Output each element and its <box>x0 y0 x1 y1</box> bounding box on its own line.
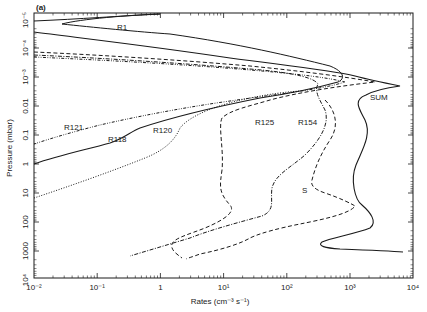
y-tick-label: 10⁴ <box>21 273 30 286</box>
x-tick-labels: 10⁻² 10⁻¹ 1 10¹ 10² 10³ 10⁴ <box>26 283 420 292</box>
y-tick-label: 1000 <box>21 242 30 260</box>
label-s: S <box>302 186 307 195</box>
chart-figure: (a) 10⁻² 10⁻¹ 1 10¹ 10² 10³ 10⁴ 10⁻⁵ 10⁻… <box>0 0 427 312</box>
y-axis-minor-ticks <box>34 29 413 276</box>
y-tick-label: 10⁻⁵ <box>21 12 30 28</box>
curve-r125 <box>34 52 375 258</box>
label-r154: R154 <box>298 118 318 127</box>
curve-r154 <box>34 55 326 256</box>
label-r120: R120 <box>153 126 173 135</box>
curve-sum <box>34 32 403 252</box>
label-r121: R121 <box>64 123 84 132</box>
y-tick-label: 100 <box>21 215 30 229</box>
x-tick-label: 10⁻¹ <box>89 283 105 292</box>
panel-label: (a) <box>36 3 46 12</box>
x-axis-title: Rates (cm⁻³ s⁻¹) <box>191 297 250 306</box>
label-sum: SUM <box>370 93 388 102</box>
x-tick-label: 10¹ <box>218 283 230 292</box>
y-tick-label: 10⁻⁴ <box>21 39 30 56</box>
curve-r120 <box>34 91 300 198</box>
label-r118: R118 <box>108 135 127 144</box>
x-axis-minor-ticks <box>53 13 410 278</box>
y-axis-title: Pressure (mbar) <box>5 119 14 177</box>
y-tick-label: 10 <box>21 188 30 197</box>
y-tick-label: 0.1 <box>21 129 30 141</box>
y-axis-ticks <box>34 48 413 251</box>
y-tick-labels: 10⁻⁵ 10⁻⁴ 10⁻³ 0.01 0.1 1 10 100 1000 10… <box>21 12 30 286</box>
curve-r1-top <box>34 14 343 82</box>
label-r125: R125 <box>255 118 275 127</box>
x-tick-label: 10² <box>281 283 293 292</box>
x-tick-label: 10³ <box>344 283 356 292</box>
y-tick-label: 10⁻³ <box>21 69 30 85</box>
y-tick-label: 0.01 <box>21 98 30 114</box>
x-axis-ticks <box>97 13 350 278</box>
x-tick-label: 10⁴ <box>407 283 420 292</box>
x-tick-label: 1 <box>158 283 163 292</box>
plot-frame <box>34 13 413 278</box>
label-r1: R1 <box>117 23 128 32</box>
y-tick-label: 1 <box>21 161 30 166</box>
